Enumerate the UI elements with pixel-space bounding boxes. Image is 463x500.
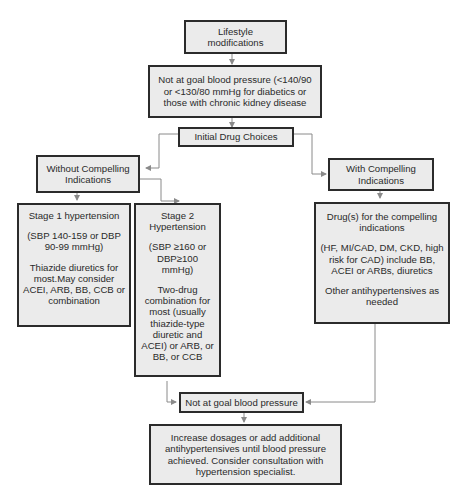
compelling-detail: (HF, MI/CAD, DM, CKD, high risk for CAD)…: [319, 242, 445, 276]
node-initial-drug-choices: Initial Drug Choices: [178, 127, 294, 147]
node-label-line2: Indications: [358, 175, 404, 186]
node-label: Not at goal blood pressure: [185, 397, 298, 408]
node-label: Lifestyle modifications: [190, 26, 281, 48]
stage2-therapy: Two-drug combination for most (usually t…: [140, 284, 215, 362]
node-not-at-goal-followup: Not at goal blood pressure: [179, 392, 304, 413]
compelling-other: Other antihypertensives as needed: [319, 285, 445, 307]
node-lifestyle-modifications: Lifestyle modifications: [184, 20, 287, 54]
node-increase-dosages: Increase dosages or add additional antih…: [149, 424, 342, 485]
node-stage2-hypertension: Stage 2 Hypertension (SBP ≥160 or DBP≥10…: [134, 203, 221, 377]
stage1-title: Stage 1 hypertension: [23, 210, 125, 221]
node-label-line2: Indications: [65, 174, 111, 185]
node-label-line1: Without Compelling: [46, 163, 129, 174]
stage1-range: (SBP 140-159 or DBP 90-99 mmHg): [23, 230, 125, 252]
node-label: Initial Drug Choices: [194, 131, 277, 142]
node-label-line1: With Compelling: [346, 163, 416, 174]
node-with-compelling-indications: With Compelling Indications: [328, 158, 434, 191]
node-label: Not at goal blood pressure (<140/90 or <…: [154, 74, 316, 109]
node-stage1-hypertension: Stage 1 hypertension (SBP 140-159 or DBP…: [17, 203, 131, 327]
node-label: Increase dosages or add additional antih…: [161, 432, 330, 477]
compelling-title: Drug(s) for the compelling indications: [319, 211, 445, 233]
stage1-therapy: Thiazide diuretics for most.May consider…: [23, 262, 125, 307]
stage2-title: Stage 2 Hypertension: [140, 210, 215, 232]
stage2-range: (SBP ≥160 or DBP≥100 mmHg): [140, 241, 215, 275]
node-compelling-indication-drugs: Drug(s) for the compelling indications (…: [314, 202, 450, 324]
node-without-compelling-indications: Without Compelling Indications: [36, 155, 140, 193]
node-not-at-goal-initial: Not at goal blood pressure (<140/90 or <…: [148, 65, 322, 118]
